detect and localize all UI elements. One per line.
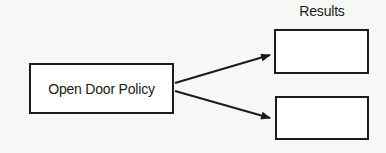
results-heading: Results <box>290 3 354 19</box>
arrow-to-result-2-icon <box>175 91 270 118</box>
result-box-2 <box>275 96 369 140</box>
arrow-to-result-1-icon <box>175 55 270 83</box>
source-box-open-door-policy: Open Door Policy <box>29 63 174 114</box>
source-label: Open Door Policy <box>48 81 155 97</box>
diagram-canvas: Results Open Door Policy <box>0 0 386 153</box>
result-box-1 <box>274 29 369 74</box>
